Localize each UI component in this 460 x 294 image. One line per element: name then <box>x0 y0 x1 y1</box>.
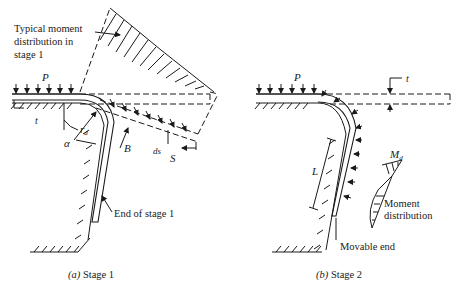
label-alpha: α <box>64 137 70 149</box>
movable-end-annotation: Movable end <box>340 241 396 252</box>
undeformed-sheet-dashed <box>80 8 218 142</box>
label-rd: rd <box>80 123 88 137</box>
moment-annotation-line2: distribution in <box>14 36 74 47</box>
panel-stage-2 <box>255 78 450 252</box>
moment-dist-annotation-line1: Moment <box>384 198 420 209</box>
panel-a-labels: Typical moment distribution in stage 1 P… <box>14 23 176 281</box>
diagram-root: Typical moment distribution in stage 1 P… <box>0 0 460 294</box>
moment-annotation-line1: Typical moment <box>14 23 82 34</box>
moment-hatch <box>100 14 204 89</box>
caption-b: (b) Stage 2 <box>316 269 362 281</box>
label-L: L <box>311 165 318 177</box>
sheet-bending-diagram: Typical moment distribution in stage 1 P… <box>0 0 460 294</box>
label-B: B <box>124 142 131 154</box>
caption-a: (a) Stage 1 <box>68 269 114 281</box>
moment-dist-annotation-line2: distribution <box>384 210 433 221</box>
label-P-a: P <box>41 71 49 83</box>
moment-annotation-line3: stage 1 <box>14 49 43 60</box>
label-P-b: P <box>293 71 301 83</box>
label-ds: ds <box>153 146 162 156</box>
label-S: S <box>170 152 176 164</box>
label-t-b: t <box>406 73 409 84</box>
end-of-stage-annotation: End of stage 1 <box>114 208 174 219</box>
die-profile-b <box>318 103 346 250</box>
load-arrows-P <box>16 84 71 93</box>
label-t-a: t <box>35 115 38 126</box>
label-Md: Md <box>389 148 403 162</box>
moment-curve <box>110 8 214 92</box>
